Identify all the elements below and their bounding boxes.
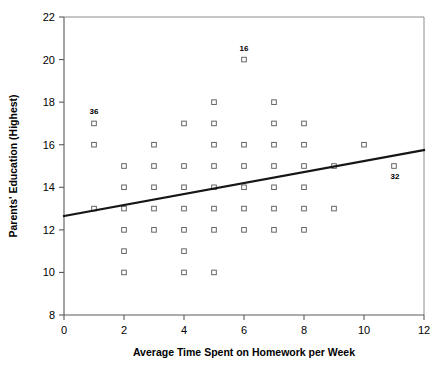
y-axis-title: Parents' Education (Highest)	[7, 94, 19, 237]
data-point-marker	[302, 228, 307, 233]
data-point-marker	[212, 228, 217, 233]
data-point-marker	[152, 142, 157, 147]
data-point-marker	[122, 228, 127, 233]
data-point-marker	[182, 249, 187, 254]
data-point-marker	[242, 228, 247, 233]
data-point-marker	[272, 185, 277, 190]
x-tick-label: 0	[61, 324, 67, 336]
y-tick-label: 16	[43, 139, 55, 151]
data-point-marker	[122, 270, 127, 275]
data-point-marker	[242, 57, 247, 62]
data-point-marker	[302, 185, 307, 190]
y-tick-label: 22	[43, 11, 55, 23]
data-point-marker	[302, 164, 307, 169]
data-point-marker	[182, 185, 187, 190]
data-point-marker	[242, 142, 247, 147]
data-point-marker	[212, 270, 217, 275]
data-point-marker	[302, 142, 307, 147]
x-tick-label: 6	[241, 324, 247, 336]
data-point-label: 16	[240, 44, 249, 53]
y-tick-label: 8	[49, 309, 55, 321]
x-tick-label: 12	[418, 324, 430, 336]
data-point-marker	[92, 121, 97, 126]
x-axis-title: Average Time Spent on Homework per Week	[133, 346, 355, 358]
data-point-marker	[182, 228, 187, 233]
scatter-plot-figure: 810121416182022 024681012 361632 Average…	[0, 0, 447, 374]
data-point-marker	[272, 206, 277, 211]
data-point-marker	[242, 164, 247, 169]
data-point-marker	[392, 164, 397, 169]
data-point-marker	[122, 206, 127, 211]
data-point-marker	[182, 270, 187, 275]
data-point-marker	[272, 121, 277, 126]
y-tick-label: 20	[43, 54, 55, 66]
x-tick-label: 2	[121, 324, 127, 336]
data-point-marker	[212, 100, 217, 105]
x-tick-label: 4	[181, 324, 187, 336]
data-point-marker	[212, 121, 217, 126]
data-point-marker	[182, 121, 187, 126]
y-tick-label: 12	[43, 224, 55, 236]
data-point-marker	[122, 249, 127, 254]
data-point-marker	[212, 164, 217, 169]
data-point-marker	[152, 164, 157, 169]
data-point-marker	[182, 206, 187, 211]
plot-canvas: 810121416182022 024681012 361632 Average…	[0, 0, 447, 374]
data-point-marker	[302, 121, 307, 126]
data-point-label: 36	[90, 107, 99, 116]
y-tick-label: 18	[43, 96, 55, 108]
data-point-marker	[152, 206, 157, 211]
data-point-marker	[122, 185, 127, 190]
data-point-marker	[332, 206, 337, 211]
data-point-marker	[152, 185, 157, 190]
y-tick-label: 14	[43, 181, 55, 193]
data-point-marker	[122, 164, 127, 169]
data-point-marker	[242, 185, 247, 190]
data-point-marker	[272, 228, 277, 233]
data-point-marker	[272, 142, 277, 147]
data-point-marker	[92, 142, 97, 147]
data-point-marker	[152, 228, 157, 233]
data-point-marker	[272, 164, 277, 169]
y-tick-label: 10	[43, 266, 55, 278]
x-tick-label: 8	[301, 324, 307, 336]
data-point-marker	[302, 206, 307, 211]
data-point-marker	[182, 164, 187, 169]
data-point-marker	[212, 142, 217, 147]
data-point-marker	[212, 206, 217, 211]
data-point-marker	[272, 100, 277, 105]
x-tick-label: 10	[358, 324, 370, 336]
data-point-marker	[242, 206, 247, 211]
data-point-marker	[362, 142, 367, 147]
data-point-label: 32	[391, 172, 400, 181]
